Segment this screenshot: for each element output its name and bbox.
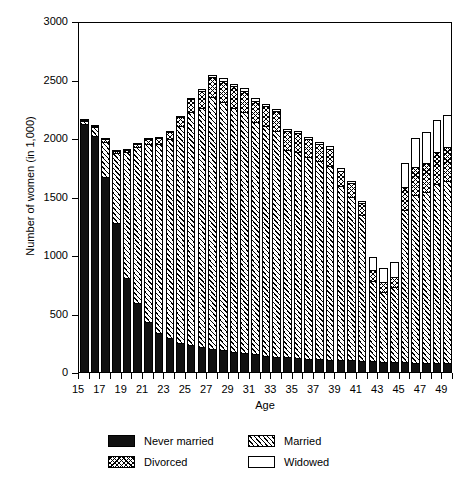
x-tick-label: 17 bbox=[89, 383, 109, 395]
bar-segment-married bbox=[326, 166, 335, 360]
legend-swatch-icon bbox=[108, 456, 135, 468]
bar-segment-widowed bbox=[251, 98, 260, 100]
bar-segment-married bbox=[283, 150, 292, 357]
bar-segment-widowed bbox=[337, 168, 346, 170]
bar-stack bbox=[358, 21, 367, 372]
bar-segment-widowed bbox=[91, 125, 100, 126]
bar-segment-widowed bbox=[379, 268, 388, 281]
x-tick bbox=[270, 373, 271, 379]
x-tick-label: 41 bbox=[346, 383, 366, 395]
bar-segment-widowed bbox=[369, 257, 378, 270]
bar-segment-divorced bbox=[369, 270, 378, 281]
x-tick bbox=[302, 373, 303, 379]
bar-segment-never-married bbox=[219, 350, 228, 372]
y-tick-label: 1000 bbox=[44, 250, 68, 261]
bar-segment-widowed bbox=[112, 150, 121, 151]
bar-segment-never-married bbox=[411, 363, 420, 372]
bar-stack bbox=[262, 21, 271, 372]
bar-segment-never-married bbox=[112, 223, 121, 372]
bar-stack bbox=[144, 21, 153, 372]
x-tick bbox=[228, 373, 229, 379]
bar-segment-married bbox=[133, 147, 142, 303]
bar-group bbox=[79, 23, 451, 372]
bar-segment-married bbox=[208, 97, 217, 349]
bar-stack bbox=[112, 21, 121, 372]
bar-segment-never-married bbox=[155, 333, 164, 372]
bar-segment-divorced bbox=[326, 149, 335, 166]
x-tick bbox=[89, 373, 90, 379]
y-axis-title: Number of women (in 1,000) bbox=[24, 6, 36, 366]
bar-stack bbox=[80, 21, 89, 372]
bar-segment-married bbox=[230, 108, 239, 351]
bar-segment-widowed bbox=[358, 201, 367, 203]
x-tick-label: 45 bbox=[389, 383, 409, 395]
x-tick-label: 39 bbox=[324, 383, 344, 395]
x-tick bbox=[313, 373, 314, 379]
legend-swatch-icon bbox=[248, 435, 275, 447]
bar-segment-never-married bbox=[230, 352, 239, 372]
bar-segment-widowed bbox=[272, 109, 281, 111]
plot-area bbox=[78, 22, 452, 373]
bar-segment-widowed bbox=[166, 131, 175, 132]
bar-segment-married bbox=[176, 126, 185, 342]
bar-segment-divorced bbox=[283, 131, 292, 150]
bar-segment-divorced bbox=[240, 91, 249, 113]
y-tick-label: 500 bbox=[50, 309, 68, 320]
bar-segment-widowed bbox=[315, 142, 324, 144]
bar-segment-divorced bbox=[91, 126, 100, 127]
bar-stack bbox=[91, 21, 100, 372]
x-tick bbox=[377, 373, 378, 379]
bar-segment-married bbox=[240, 112, 249, 353]
bar-segment-never-married bbox=[91, 136, 100, 372]
bar-segment-never-married bbox=[187, 345, 196, 372]
bar-segment-widowed bbox=[422, 132, 431, 162]
bar-segment-divorced bbox=[304, 139, 313, 157]
bar-stack bbox=[433, 21, 442, 372]
bar-segment-married bbox=[262, 126, 271, 355]
bar-segment-never-married bbox=[101, 177, 110, 372]
bar-segment-divorced bbox=[112, 151, 121, 153]
y-tick-label: 0 bbox=[62, 367, 68, 378]
bar-segment-never-married bbox=[283, 357, 292, 372]
x-tick bbox=[153, 373, 154, 379]
bar-stack bbox=[443, 21, 452, 372]
bar-segment-divorced bbox=[101, 139, 110, 141]
x-tick bbox=[281, 373, 282, 379]
bar-segment-widowed bbox=[101, 138, 110, 139]
bar-segment-widowed bbox=[230, 84, 239, 86]
legend-swatch-icon bbox=[248, 456, 275, 468]
x-tick bbox=[206, 373, 207, 379]
bar-segment-divorced bbox=[166, 132, 175, 139]
x-tick bbox=[185, 373, 186, 379]
bar-stack bbox=[379, 21, 388, 372]
x-tick bbox=[249, 373, 250, 379]
x-tick-label: 19 bbox=[111, 383, 131, 395]
bar-stack bbox=[219, 21, 228, 372]
bar-segment-married bbox=[155, 144, 164, 334]
x-tick-label: 23 bbox=[153, 383, 173, 395]
bar-segment-widowed bbox=[283, 129, 292, 131]
bar-segment-widowed bbox=[208, 75, 217, 77]
bar-segment-widowed bbox=[433, 120, 442, 152]
bar-segment-divorced bbox=[230, 86, 239, 108]
bar-stack bbox=[347, 21, 356, 372]
chart-legend: Never marriedMarriedDivorcedWidowed bbox=[108, 430, 408, 472]
bar-segment-married bbox=[401, 210, 410, 362]
bar-segment-married bbox=[166, 139, 175, 338]
bar-segment-never-married bbox=[133, 303, 142, 372]
bar-segment-divorced bbox=[133, 144, 142, 148]
x-tick bbox=[388, 373, 389, 379]
bar-segment-never-married bbox=[347, 360, 356, 372]
bar-segment-never-married bbox=[433, 363, 442, 372]
bar-segment-divorced bbox=[198, 91, 207, 107]
bar-segment-never-married bbox=[144, 322, 153, 372]
x-tick bbox=[260, 373, 261, 379]
x-tick bbox=[99, 373, 100, 379]
bar-segment-married bbox=[315, 161, 324, 359]
bar-segment-divorced bbox=[379, 282, 388, 292]
y-tick-label: 3000 bbox=[44, 16, 68, 27]
bar-segment-widowed bbox=[294, 131, 303, 133]
bar-segment-divorced bbox=[208, 77, 217, 97]
bar-stack bbox=[390, 21, 399, 372]
bar-stack bbox=[422, 21, 431, 372]
